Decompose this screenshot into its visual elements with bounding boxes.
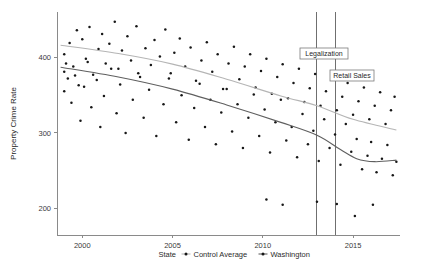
- data-point-washington: [345, 123, 348, 126]
- data-point-washington: [198, 83, 201, 86]
- data-point-control-average: [85, 58, 88, 61]
- data-point-washington: [247, 117, 250, 120]
- y-tick-label: 400: [38, 53, 51, 62]
- data-point-control-average: [108, 43, 111, 46]
- data-point-washington: [142, 117, 145, 120]
- data-point-control-average: [164, 28, 167, 31]
- legend-label-washington: Washington: [271, 250, 310, 259]
- data-point-washington: [269, 151, 272, 154]
- data-point-control-average: [130, 59, 133, 62]
- data-point-washington: [350, 151, 353, 154]
- x-tick-label: 2010: [254, 241, 271, 250]
- data-point-washington: [236, 103, 239, 106]
- data-point-washington: [119, 83, 122, 86]
- data-point-washington: [83, 86, 86, 89]
- data-point-control-average: [135, 25, 138, 28]
- data-point-washington: [99, 126, 102, 128]
- data-point-control-average: [249, 53, 252, 56]
- data-point-washington: [175, 121, 178, 124]
- data-point-washington: [124, 132, 127, 135]
- data-point-control-average: [373, 104, 376, 107]
- data-point-control-average: [390, 109, 393, 112]
- data-point-control-average: [121, 49, 124, 52]
- legend-marker-0-dot: [185, 253, 188, 256]
- legend-label-control-average: Control Average: [194, 250, 248, 259]
- data-point-washington: [328, 147, 331, 150]
- data-point-control-average: [384, 123, 387, 126]
- data-point-washington: [274, 121, 277, 124]
- data-point-washington: [386, 144, 389, 147]
- y-axis-title: Property Crime Rate: [9, 87, 18, 160]
- data-point-washington: [312, 129, 315, 132]
- data-point-control-average: [363, 86, 366, 89]
- data-point-washington: [86, 61, 89, 64]
- data-point-washington: [137, 72, 140, 75]
- data-point-washington: [180, 94, 183, 97]
- data-point-control-average: [139, 76, 142, 79]
- data-point-washington: [220, 111, 223, 114]
- data-point-washington: [242, 147, 245, 150]
- data-point-control-average: [173, 52, 176, 55]
- data-point-washington: [70, 101, 73, 104]
- data-point-control-average: [211, 70, 214, 73]
- data-point-washington: [307, 143, 310, 146]
- data-point-washington: [318, 160, 321, 163]
- data-point-washington: [285, 139, 288, 142]
- data-point-washington: [375, 171, 378, 174]
- data-point-control-average: [92, 73, 95, 76]
- data-point-washington: [370, 141, 373, 144]
- data-point-control-average: [276, 76, 279, 79]
- data-point-washington: [366, 154, 369, 157]
- data-point-control-average: [393, 95, 396, 98]
- data-point-washington: [63, 90, 66, 93]
- data-point-control-average: [206, 41, 209, 44]
- data-point-washington: [301, 113, 304, 116]
- data-point-washington: [263, 108, 266, 111]
- data-point-washington: [265, 198, 268, 201]
- data-point-control-average: [72, 65, 75, 68]
- data-point-control-average: [336, 109, 339, 112]
- data-point-control-average: [325, 90, 328, 93]
- data-point-control-average: [159, 55, 162, 58]
- data-point-control-average: [346, 82, 349, 85]
- data-point-control-average: [238, 78, 241, 81]
- data-point-washington: [231, 130, 234, 133]
- y-tick-label: 200: [38, 204, 51, 213]
- data-point-washington: [115, 112, 118, 115]
- data-point-washington: [253, 93, 256, 96]
- legend-title: State: [159, 250, 177, 259]
- y-tick-label: 300: [38, 129, 51, 138]
- data-point-control-average: [308, 87, 311, 90]
- data-point-control-average: [357, 100, 360, 103]
- data-point-washington: [361, 168, 364, 171]
- data-point-washington: [395, 160, 398, 163]
- data-point-washington: [316, 200, 319, 203]
- data-point-washington: [204, 126, 207, 128]
- data-point-control-average: [76, 29, 79, 32]
- data-point-control-average: [126, 35, 129, 38]
- data-point-control-average: [341, 95, 344, 98]
- data-point-washington: [188, 139, 191, 142]
- data-point-control-average: [352, 114, 355, 117]
- scatter-plot-svg: 2003004002000200520102015Property Crime …: [0, 0, 427, 270]
- data-point-washington: [281, 204, 284, 207]
- data-point-washington: [296, 156, 299, 159]
- data-point-washington: [103, 95, 106, 98]
- data-point-control-average: [298, 67, 301, 70]
- data-point-washington: [79, 120, 82, 123]
- data-point-control-average: [222, 88, 225, 91]
- data-point-washington: [65, 62, 68, 65]
- data-point-washington: [132, 98, 135, 101]
- data-point-control-average: [233, 46, 236, 49]
- data-point-control-average: [117, 67, 120, 70]
- data-point-control-average: [179, 37, 182, 40]
- data-point-control-average: [368, 118, 371, 121]
- data-point-washington: [74, 74, 77, 77]
- data-point-washington: [162, 103, 165, 106]
- annotation-label-legalization: Legalization: [305, 50, 342, 58]
- data-point-control-average: [227, 62, 230, 65]
- data-point-control-average: [88, 26, 91, 29]
- data-point-control-average: [195, 80, 198, 83]
- data-point-control-average: [153, 39, 156, 42]
- data-point-control-average: [67, 77, 70, 80]
